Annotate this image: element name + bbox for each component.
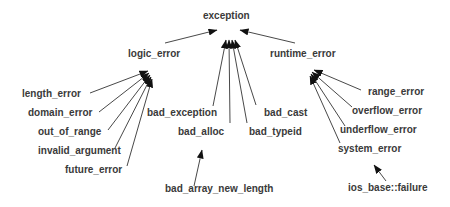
node-future_error: future_error [65, 164, 122, 176]
edge-bad_exception-exception [213, 40, 226, 106]
node-logic_error: logic_error [128, 48, 180, 60]
edge-bad_array_new_length-bad_alloc [194, 150, 202, 186]
node-bad_exception: bad_exception [147, 107, 217, 119]
edge-invalid_argument-logic_error [115, 77, 151, 148]
edge-underflow_error-runtime_error [311, 74, 345, 126]
edge-out_of_range-logic_error [108, 75, 150, 130]
edge-future_error-logic_error [127, 79, 152, 166]
edge-ios_base_failure-system_error [374, 165, 386, 181]
edge-system_error-runtime_error [310, 76, 340, 143]
node-invalid_argument: invalid_argument [38, 145, 121, 157]
edge-bad_typeid-exception [232, 40, 247, 123]
edge-runtime_error-exception [240, 30, 295, 43]
node-ios_base_failure: ios_base::failure [348, 182, 427, 194]
node-out_of_range: out_of_range [38, 126, 101, 138]
edge-bad_alloc-exception [229, 40, 230, 123]
node-bad_alloc: bad_alloc [178, 126, 224, 138]
node-domain_error: domain_error [28, 107, 92, 119]
node-range_error: range_error [368, 86, 424, 98]
exception-hierarchy-diagram: exception logic_error runtime_error leng… [0, 0, 450, 207]
node-bad_cast: bad_cast [264, 107, 307, 119]
node-bad_typeid: bad_typeid [249, 126, 302, 138]
node-exception: exception [203, 10, 250, 22]
node-bad_array_new_length: bad_array_new_length [165, 183, 273, 195]
edge-logic_error-exception [165, 30, 217, 43]
node-underflow_error: underflow_error [340, 124, 417, 136]
node-runtime_error: runtime_error [270, 48, 336, 60]
node-overflow_error: overflow_error [352, 105, 422, 117]
node-system_error: system_error [338, 143, 401, 155]
node-length_error: length_error [22, 88, 81, 100]
edge-domain_error-logic_error [99, 73, 149, 112]
